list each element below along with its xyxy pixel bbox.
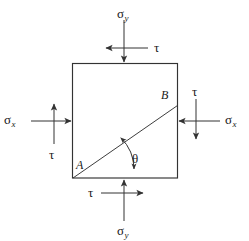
vertex-label-a: A [76,159,83,171]
diagonal-plane-line [73,106,178,179]
tau-left-label: τ [49,148,54,161]
sigma-subscript: x [11,119,15,129]
theta-angle-label: θ [132,152,138,165]
sigma-symbol: σ [117,6,124,21]
sigma-symbol: σ [4,112,11,127]
sigma-symbol: σ [225,112,232,127]
figure-vector-layer [0,0,249,241]
sigma-subscript: y [124,230,128,240]
sigma-symbol: σ [117,223,124,238]
sigma-x-right-label: σx [225,113,236,129]
sigma-y-bottom-label: σy [117,224,128,240]
sigma-y-top-label: σy [117,7,128,23]
sigma-subscript: x [232,119,236,129]
tau-bottom-label: τ [88,186,93,199]
plane-stress-element-figure: σy τ σx τ σx τ τ σy A B θ [0,0,249,241]
tau-right-label: τ [192,85,197,98]
tau-top-label: τ [154,41,159,54]
sigma-subscript: y [124,13,128,23]
sigma-x-left-label: σx [4,113,15,129]
stress-element-square [73,64,178,179]
vertex-label-b: B [161,89,168,101]
